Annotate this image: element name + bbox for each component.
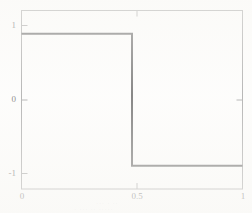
data-series-square-wave xyxy=(22,34,243,166)
figure-container: 1 0 -1 0 0.5 1 ··· · ·· · ··· ·· ····· xyxy=(0,0,252,213)
y-tick-label-0: 0 xyxy=(0,95,16,104)
y-tick-label-1: 1 xyxy=(0,21,16,30)
x-tick-label-1: 1 xyxy=(236,192,250,201)
x-tick-label-0point5: 0.5 xyxy=(127,192,147,201)
x-tick-label-0: 0 xyxy=(14,192,30,201)
y-tick-label-neg1: -1 xyxy=(0,169,16,178)
square-wave-chart xyxy=(0,0,252,213)
